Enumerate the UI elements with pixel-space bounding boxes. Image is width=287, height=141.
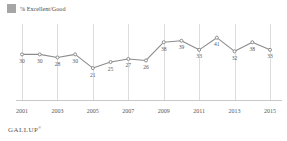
data-point-label: 38 bbox=[249, 47, 255, 53]
x-axis-tick: 2009 bbox=[158, 108, 170, 114]
brand-trademark: ® bbox=[38, 126, 41, 130]
series-marker bbox=[251, 41, 254, 44]
x-axis-tick: 2007 bbox=[122, 108, 134, 114]
series-marker bbox=[109, 61, 112, 64]
x-axis-tick: 2003 bbox=[51, 108, 63, 114]
data-point-label: 30 bbox=[19, 59, 25, 65]
x-axis-tick: 2015 bbox=[264, 108, 276, 114]
series-marker bbox=[127, 57, 130, 60]
legend-label: % Excellent/Good bbox=[20, 4, 66, 13]
series-marker bbox=[180, 39, 183, 42]
data-point-label: 30 bbox=[37, 59, 43, 65]
data-point-label: 39 bbox=[179, 45, 185, 51]
series-marker bbox=[198, 48, 201, 51]
series-marker bbox=[233, 50, 236, 53]
series-marker bbox=[269, 48, 272, 51]
chart-legend: % Excellent/Good bbox=[7, 4, 66, 13]
x-axis-tick: 2001 bbox=[16, 108, 28, 114]
data-point-label: 28 bbox=[55, 62, 61, 68]
series-marker bbox=[215, 36, 218, 39]
data-point-label: 33 bbox=[267, 54, 273, 60]
data-point-label: 30 bbox=[72, 59, 78, 65]
chart-container: % Excellent/Good 30302830212527263839334… bbox=[0, 0, 287, 141]
x-axis-tick: 2013 bbox=[229, 108, 241, 114]
data-point-label: 26 bbox=[143, 65, 149, 71]
series-marker bbox=[38, 53, 41, 56]
data-point-label: 32 bbox=[232, 56, 238, 62]
series-marker bbox=[91, 67, 94, 70]
x-axis-line bbox=[16, 100, 282, 101]
gallup-logo: GALLUP® bbox=[8, 126, 42, 134]
brand-name: GALLUP bbox=[8, 126, 38, 134]
series-marker bbox=[74, 53, 77, 56]
legend-swatch-icon bbox=[7, 4, 16, 13]
x-axis-tick: 2011 bbox=[193, 108, 205, 114]
data-point-label: 41 bbox=[214, 42, 220, 48]
data-point-label: 27 bbox=[125, 63, 131, 69]
series-marker bbox=[21, 53, 24, 56]
data-point-label: 38 bbox=[161, 47, 167, 53]
series-marker bbox=[145, 59, 148, 62]
series-marker bbox=[162, 41, 165, 44]
data-point-label: 25 bbox=[108, 67, 114, 73]
x-axis-tick: 2005 bbox=[87, 108, 99, 114]
data-point-label: 21 bbox=[90, 73, 96, 79]
data-point-label: 33 bbox=[196, 54, 202, 60]
series-marker bbox=[56, 56, 59, 59]
